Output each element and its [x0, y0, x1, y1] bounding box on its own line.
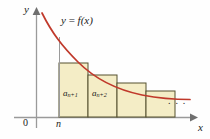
origin-label: 0: [23, 118, 28, 128]
bar-label-2-subscript: n+2: [97, 92, 107, 98]
ellipsis-label: . . .: [168, 96, 187, 106]
axis-label-y: y: [24, 4, 29, 15]
curve-label: y = f(x): [61, 15, 93, 26]
bar-label-1-subscript: n+1: [68, 92, 78, 98]
table-row: [117, 83, 146, 117]
x-axis-arrowhead: [190, 114, 198, 122]
tick-label-n: n: [56, 119, 61, 129]
y-axis: [33, 7, 41, 128]
bar-label-a-n-plus-1: an+1: [63, 89, 78, 98]
integral-test-figure: y x 0 n y = f(x) an+1 an+2 . . .: [0, 0, 210, 139]
bar-label-a-n-plus-2: an+2: [92, 89, 107, 98]
curve-label-arg: (x): [81, 14, 93, 26]
figure-canvas: [0, 0, 210, 139]
y-axis-arrowhead: [33, 7, 41, 15]
curve-label-equals: =: [66, 14, 78, 26]
axis-label-x: x: [198, 122, 203, 133]
